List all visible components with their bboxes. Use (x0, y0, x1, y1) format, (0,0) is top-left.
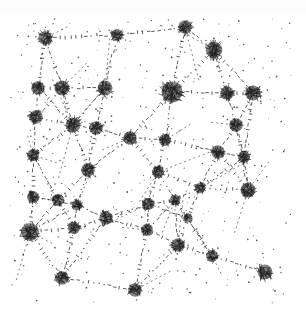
scribble-node (27, 110, 43, 126)
scribble-node (193, 181, 206, 194)
scribble-node (177, 20, 194, 36)
scribble-node (27, 190, 39, 204)
scribble-node (256, 264, 273, 282)
scribble-node (26, 148, 40, 162)
scribble-node (158, 133, 171, 147)
scribble-node (54, 270, 71, 286)
scribble-node (128, 282, 143, 296)
scribble-node (121, 129, 137, 146)
scribble-node (98, 210, 114, 227)
scattered-dots (10, 18, 292, 303)
scribble-node (37, 30, 53, 47)
scribble-node (220, 85, 236, 102)
scribble-node (67, 221, 82, 234)
scribble-node (209, 145, 225, 161)
scribble-node (238, 151, 252, 165)
scribble-node (110, 29, 125, 42)
scribble-node (159, 80, 186, 104)
scribble-node (141, 223, 153, 236)
dashed-connections (16, 27, 269, 290)
scribble-node (89, 121, 105, 135)
abstract-network-drawing (0, 0, 306, 319)
scribble-node (53, 78, 70, 96)
scribble-node (152, 165, 165, 179)
scribble-node (229, 118, 243, 132)
scribble-node (169, 238, 185, 253)
scribble-node (81, 162, 96, 178)
scribble-node (142, 198, 156, 212)
scribble-node (241, 182, 258, 199)
scribble-node (31, 80, 45, 97)
scribble-node (205, 40, 222, 61)
scribble-node (182, 213, 193, 223)
scribble-node (64, 115, 83, 134)
scribble-node (244, 86, 263, 102)
